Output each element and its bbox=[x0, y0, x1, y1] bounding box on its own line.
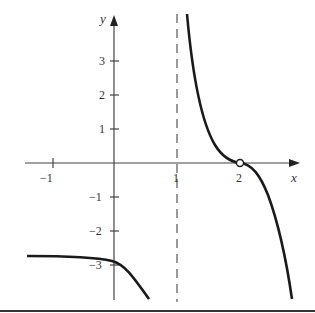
open-point-marker bbox=[237, 160, 244, 167]
x-tick-label-2: 2 bbox=[236, 171, 242, 185]
y-axis-arrow-icon bbox=[110, 15, 118, 26]
y-tick-label-neg1: −1 bbox=[89, 190, 102, 204]
x-axis-arrow-icon bbox=[289, 159, 300, 167]
y-tick-label-neg2: −2 bbox=[89, 224, 102, 238]
y-tick-label-neg3: −3 bbox=[89, 258, 102, 272]
x-tick-label-neg1: −1 bbox=[40, 171, 53, 185]
y-tick-label-2: 2 bbox=[99, 88, 105, 102]
y-tick-label-3: 3 bbox=[99, 54, 105, 68]
y-tick-label-1: 1 bbox=[99, 122, 105, 136]
curve-right-branch bbox=[187, 14, 292, 299]
curve-left-branch bbox=[27, 256, 149, 299]
chart: y x 3 2 1 −1 −2 −3 −1 1 2 bbox=[0, 0, 315, 313]
x-tick-label-1: 1 bbox=[173, 171, 179, 185]
y-axis-label: y bbox=[98, 11, 106, 26]
x-axis-label: x bbox=[290, 170, 297, 185]
